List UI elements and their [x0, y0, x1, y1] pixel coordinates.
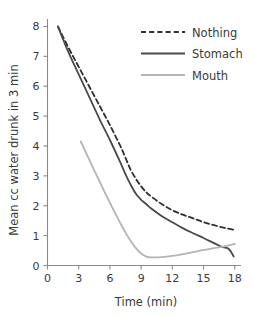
y-tick-label: 7 [33, 50, 40, 63]
legend-label-stomach: Stomach [192, 47, 243, 61]
x-axis-title: Time (min) [114, 295, 177, 309]
x-tick-label: 3 [75, 272, 82, 285]
y-tick-label: 1 [33, 230, 40, 243]
x-axis-ticks [48, 266, 235, 270]
y-axis-tick-labels: 012345678 [33, 20, 40, 272]
y-tick-label: 2 [33, 200, 40, 213]
y-tick-label: 3 [33, 170, 40, 183]
x-tick-label: 6 [106, 272, 113, 285]
series-line-mouth [81, 142, 235, 258]
x-tick-label: 12 [165, 272, 179, 285]
y-tick-label: 0 [33, 260, 40, 273]
y-tick-label: 8 [33, 20, 40, 33]
y-tick-label: 6 [33, 80, 40, 93]
data-series-group [58, 26, 235, 257]
x-tick-label: 15 [197, 272, 211, 285]
chart-legend: NothingStomachMouth [141, 26, 243, 83]
chart-figure: 012345678 0369121518 NothingStomachMouth… [0, 0, 253, 317]
y-axis-ticks [44, 26, 48, 265]
x-tick-label: 9 [138, 272, 145, 285]
line-chart: 012345678 0369121518 NothingStomachMouth… [0, 0, 253, 317]
y-tick-label: 4 [33, 140, 40, 153]
legend-label-nothing: Nothing [192, 26, 237, 40]
legend-label-mouth: Mouth [192, 69, 228, 83]
y-axis-title: Mean cc water drunk in 3 min [7, 64, 21, 235]
x-tick-label: 18 [228, 272, 242, 285]
x-tick-label: 0 [44, 272, 51, 285]
x-axis-tick-labels: 0369121518 [44, 272, 242, 285]
y-tick-label: 5 [33, 110, 40, 123]
